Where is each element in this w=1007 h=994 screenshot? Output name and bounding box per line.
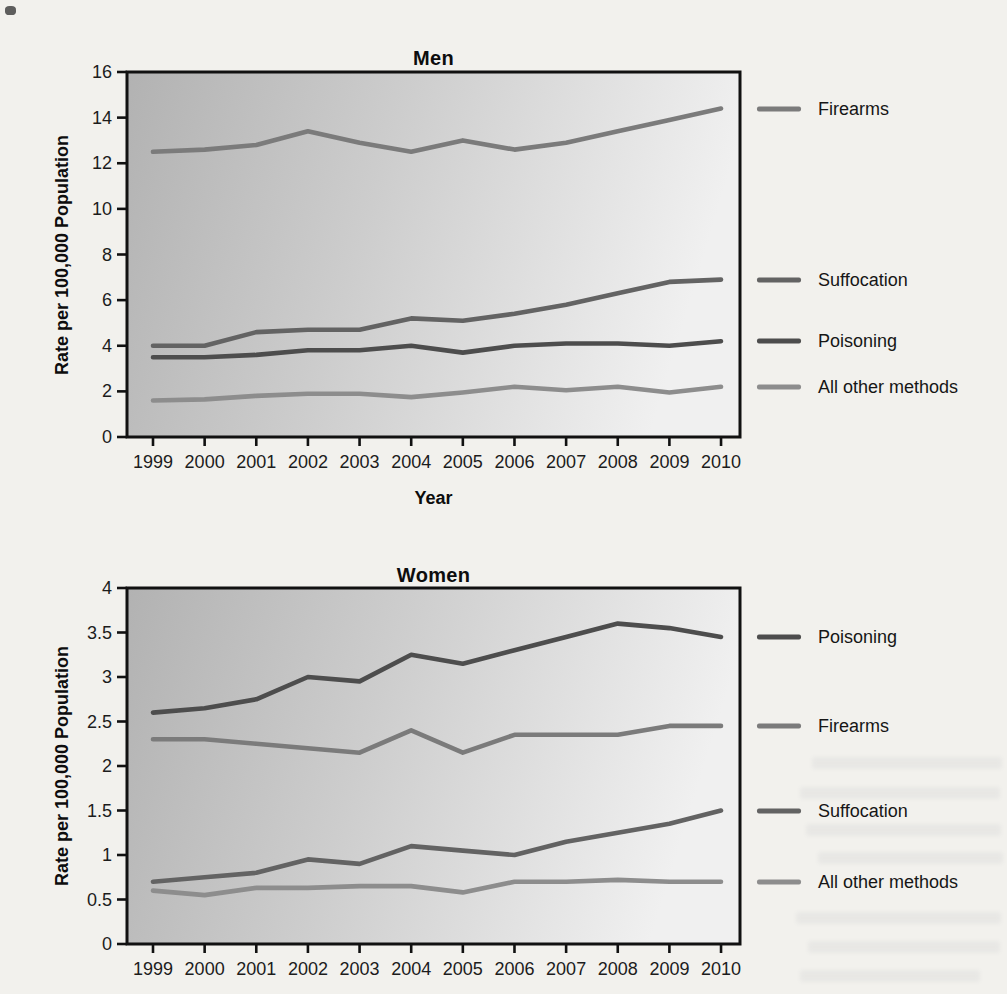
y-tick-label: 2.5 xyxy=(87,712,112,732)
legend-item-suffocation: Suffocation xyxy=(757,270,908,291)
page-bleed-artifact xyxy=(808,941,1000,953)
y-tick-label: 2 xyxy=(102,756,112,776)
page: Men Rate per 100,000 Population 19992000… xyxy=(0,0,1007,994)
women-chart-title: Women xyxy=(127,564,740,587)
y-tick-label: 0 xyxy=(102,934,112,954)
x-tick-label: 2004 xyxy=(391,959,431,979)
x-tick-label: 2002 xyxy=(288,452,328,472)
men-x-axis-label: Year xyxy=(127,488,740,509)
page-bleed-artifact xyxy=(806,824,1001,836)
legend-label: Suffocation xyxy=(818,801,908,822)
x-tick-label: 2005 xyxy=(443,959,483,979)
legend-swatch-poisoning xyxy=(757,635,801,640)
legend-swatch-firearms xyxy=(757,724,801,729)
page-bleed-artifact xyxy=(818,852,1003,864)
y-tick-label: 4 xyxy=(102,578,112,598)
x-tick-label: 2009 xyxy=(649,959,689,979)
legend-item-all-other-methods: All other methods xyxy=(757,377,958,398)
x-tick-label: 2003 xyxy=(340,452,380,472)
legend-item-firearms: Firearms xyxy=(757,99,889,120)
x-tick-label: 2003 xyxy=(340,959,380,979)
x-tick-label: 2009 xyxy=(649,452,689,472)
y-tick-label: 10 xyxy=(92,199,112,219)
page-bleed-artifact xyxy=(800,787,1000,799)
x-tick-label: 2005 xyxy=(443,452,483,472)
x-tick-label: 2000 xyxy=(185,452,225,472)
men-y-axis-label: Rate per 100,000 Population xyxy=(50,55,74,455)
legend-swatch-firearms xyxy=(757,107,801,112)
y-tick-label: 1 xyxy=(102,845,112,865)
men-plot-area: 1999200020012002200320042005200620072008… xyxy=(127,72,740,437)
y-tick-label: 4 xyxy=(102,336,112,356)
y-tick-label: 2 xyxy=(102,381,112,401)
legend-swatch-all-other-methods xyxy=(757,880,801,885)
x-tick-label: 2000 xyxy=(185,959,225,979)
legend-swatch-suffocation xyxy=(757,809,801,814)
y-tick-label: 0.5 xyxy=(87,890,112,910)
x-tick-label: 2001 xyxy=(236,959,276,979)
page-bleed-artifact xyxy=(812,757,1002,769)
legend-item-firearms: Firearms xyxy=(757,716,889,737)
y-tick-label: 6 xyxy=(102,290,112,310)
legend-label: All other methods xyxy=(818,872,958,893)
y-tick-label: 3 xyxy=(102,667,112,687)
scan-speck xyxy=(5,6,16,15)
legend-item-poisoning: Poisoning xyxy=(757,627,897,648)
legend-label: All other methods xyxy=(818,377,958,398)
x-tick-label: 2002 xyxy=(288,959,328,979)
x-tick-label: 2007 xyxy=(546,452,586,472)
y-tick-label: 1.5 xyxy=(87,801,112,821)
page-bleed-artifact xyxy=(796,912,1001,924)
men-chart-title: Men xyxy=(127,47,740,70)
x-tick-label: 2008 xyxy=(598,452,638,472)
y-tick-label: 14 xyxy=(92,108,112,128)
legend-swatch-all-other-methods xyxy=(757,385,801,390)
legend-item-poisoning: Poisoning xyxy=(757,331,897,352)
legend-swatch-poisoning xyxy=(757,339,801,344)
legend-item-all-other-methods: All other methods xyxy=(757,872,958,893)
women-y-axis-label: Rate per 100,000 Population xyxy=(50,566,74,966)
x-tick-label: 1999 xyxy=(133,959,173,979)
legend-swatch-suffocation xyxy=(757,278,801,283)
women-plot-area: 1999200020012002200320042005200620072008… xyxy=(127,588,740,944)
y-tick-label: 8 xyxy=(102,245,112,265)
y-tick-label: 12 xyxy=(92,153,112,173)
legend-label: Firearms xyxy=(818,716,889,737)
x-tick-label: 2010 xyxy=(701,959,741,979)
x-tick-label: 2006 xyxy=(494,959,534,979)
legend-label: Poisoning xyxy=(818,627,897,648)
legend-item-suffocation: Suffocation xyxy=(757,801,908,822)
legend-label: Suffocation xyxy=(818,270,908,291)
x-tick-label: 2006 xyxy=(494,452,534,472)
x-tick-label: 2007 xyxy=(546,959,586,979)
x-tick-label: 2001 xyxy=(236,452,276,472)
y-tick-label: 3.5 xyxy=(87,623,112,643)
legend-label: Firearms xyxy=(818,99,889,120)
y-tick-label: 0 xyxy=(102,427,112,447)
page-bleed-artifact xyxy=(800,970,980,982)
x-tick-label: 1999 xyxy=(133,452,173,472)
x-tick-label: 2010 xyxy=(701,452,741,472)
legend-label: Poisoning xyxy=(818,331,897,352)
y-tick-label: 16 xyxy=(92,62,112,82)
x-tick-label: 2004 xyxy=(391,452,431,472)
x-tick-label: 2008 xyxy=(598,959,638,979)
